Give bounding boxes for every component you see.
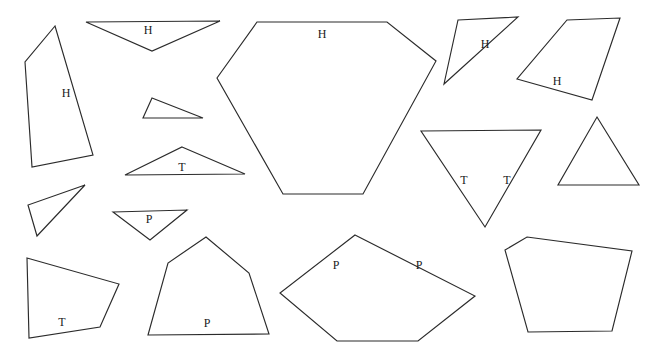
shape-quad-h-left	[25, 26, 93, 167]
shape-quad-t-bottom-left-label: T	[58, 316, 65, 328]
shape-quad-h-right	[517, 18, 620, 100]
shape-triangle-t-left-label: T	[178, 161, 185, 173]
shape-quad-h-right-label: H	[553, 75, 562, 87]
shape-pentagon-p-center-bottom-label-secondary: P	[416, 259, 423, 271]
shape-figure-canvas: HHHHHTTTPTPPP	[0, 0, 647, 356]
shape-pentagon-p-center-bottom-label: P	[333, 259, 340, 271]
polygon-layer	[0, 0, 647, 356]
shape-triangle-h-upper-right-label: H	[481, 38, 490, 50]
shape-pentagon-p-center-bottom	[280, 235, 475, 341]
shape-triangle-t-inverted-label-secondary: T	[503, 174, 510, 186]
shape-hexagon-h-center-label: H	[318, 28, 327, 40]
shape-triangle-t-inverted-label: T	[460, 174, 467, 186]
shape-triangle-h-top-label: H	[144, 24, 153, 36]
shape-triangle-h-top	[86, 21, 220, 51]
shape-pentagon-p-bottom-label: P	[204, 317, 211, 329]
shape-quad-t-bottom-left	[27, 258, 119, 338]
shape-pentagon-bottom-right	[505, 237, 632, 332]
shape-triangle-thin-left	[28, 185, 85, 236]
shape-hexagon-h-center	[217, 22, 436, 194]
shape-quad-h-left-label: H	[62, 87, 71, 99]
shape-triangle-right-upright	[558, 117, 639, 185]
shape-triangle-p-small-label: P	[146, 213, 153, 225]
shape-triangle-t-inverted	[421, 130, 541, 227]
shape-triangle-small-sliver	[143, 98, 203, 118]
